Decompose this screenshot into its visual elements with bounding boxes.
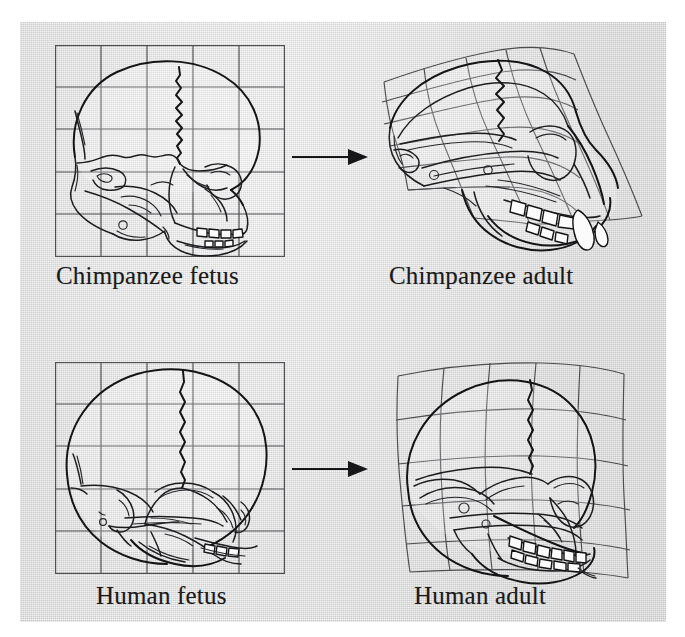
arrow-chimpanzee (292, 144, 370, 170)
caption-chimpanzee-fetus: Chimpanzee fetus (56, 263, 239, 288)
lower-teeth (205, 240, 233, 247)
upper-teeth (197, 228, 243, 238)
panel-chimpanzee-adult (378, 40, 658, 270)
chimpanzee-adult-drawing (378, 40, 658, 270)
caption-human-fetus: Human fetus (96, 583, 227, 608)
caption-human-adult: Human adult (414, 583, 546, 608)
human-adult-drawing (392, 358, 642, 590)
chimpanzee-fetus-skull (71, 61, 260, 256)
chimpanzee-adult-skull (389, 60, 618, 250)
panel-human-adult (392, 358, 642, 590)
figure-root: Chimpanzee fetus (0, 0, 685, 637)
human-fetus-drawing (55, 362, 285, 574)
panel-chimpanzee-fetus (55, 45, 285, 257)
caption-chimpanzee-adult: Chimpanzee adult (389, 263, 573, 288)
panel-human-fetus (55, 362, 285, 574)
human-adult-skull (407, 380, 597, 584)
chimpanzee-fetus-drawing (55, 45, 285, 257)
human-fetus-skull (67, 369, 268, 566)
arrow-human (292, 456, 370, 482)
